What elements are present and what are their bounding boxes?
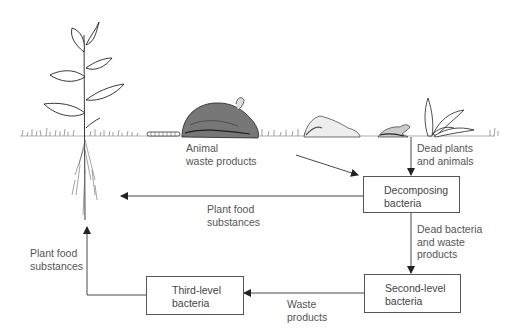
dead-bird-illustration (378, 125, 410, 137)
arrow-plant-food-left (87, 227, 146, 295)
box-label-line1: Third-level (172, 284, 243, 297)
second-level-bacteria-box: Second-level bacteria (364, 274, 461, 313)
third-level-bacteria-box: Third-level bacteria (146, 276, 244, 315)
rabbit-illustration (182, 98, 259, 138)
box-label-line2: bacteria (384, 197, 459, 210)
plant-illustration (44, 22, 124, 220)
decomposing-bacteria-box: Decomposing bacteria (363, 176, 460, 213)
label-animal-waste: Animal waste products (186, 142, 257, 167)
label-plant-food-left: Plant food substances (30, 247, 83, 272)
box-label-line2: bacteria (385, 295, 460, 308)
box-label-line1: Decomposing (384, 184, 459, 197)
rock-illustration (304, 116, 360, 137)
box-label-line1: Second-level (385, 282, 460, 295)
label-dead-plants-animals: Dead plants and animals (417, 142, 474, 167)
label-dead-bacteria: Dead bacteria and waste products (417, 223, 482, 261)
box-label-line2: bacteria (172, 297, 243, 310)
arrow-animal-waste (296, 155, 358, 175)
label-plant-food-top: Plant food substances (207, 203, 260, 228)
dead-plant-illustration (425, 98, 474, 137)
caterpillar-illustration (147, 132, 180, 136)
label-waste-products: Waste products (287, 298, 327, 323)
